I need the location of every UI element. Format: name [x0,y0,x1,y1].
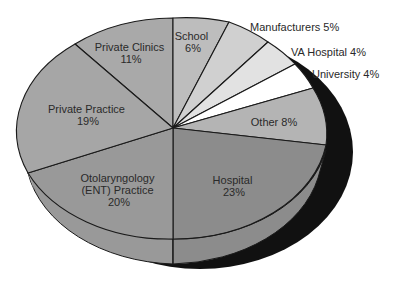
label-va-hospital: VA Hospital 4% [291,46,366,58]
label-university: University 4% [312,68,379,80]
pie-chart: Private Clinics 11% School 6% Manufactur… [0,0,397,290]
label-other: Other 8% [251,116,298,128]
label-manufacturers: Manufacturers 5% [250,21,339,33]
pie-top [17,18,327,239]
